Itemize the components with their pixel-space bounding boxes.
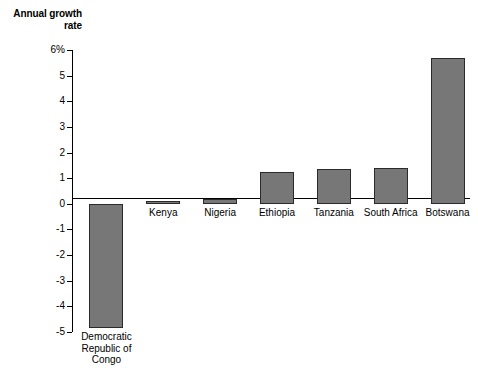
y-tick-label: 6% (51, 45, 65, 55)
bar (260, 172, 294, 204)
y-tick-label: -2 (56, 250, 65, 260)
y-tick-mark (67, 229, 72, 230)
y-axis-line (72, 50, 73, 332)
bar (203, 199, 237, 204)
y-tick-label: -1 (56, 224, 65, 234)
bar (317, 169, 351, 204)
x-category-label: Botswana (404, 207, 478, 219)
bar (431, 58, 465, 204)
bar (374, 168, 408, 204)
y-tick-label: -4 (56, 301, 65, 311)
y-tick-label: 1 (59, 173, 65, 183)
y-tick-label: 4 (59, 96, 65, 106)
y-tick-mark (67, 178, 72, 179)
y-tick-mark (67, 204, 72, 205)
bar (146, 201, 180, 204)
y-tick-mark (67, 101, 72, 102)
y-tick-mark (67, 281, 72, 282)
y-axis-title: Annual growth rate (10, 8, 82, 32)
y-tick-mark (67, 306, 72, 307)
bar-chart: Annual growth rate 6%543210-1-2-3-4-5 De… (0, 0, 478, 368)
y-tick-mark (67, 127, 72, 128)
y-tick-label: 2 (59, 148, 65, 158)
y-tick-mark (67, 153, 72, 154)
y-tick-mark (67, 50, 72, 51)
y-tick-label: 3 (59, 122, 65, 132)
y-tick-label: 0 (59, 199, 65, 209)
bar (89, 204, 123, 328)
y-tick-label: -3 (56, 276, 65, 286)
y-tick-label: 5 (59, 71, 65, 81)
y-tick-mark (67, 255, 72, 256)
y-tick-mark (67, 76, 72, 77)
x-category-label: Democratic Republic of Congo (62, 331, 150, 366)
plot-area: 6%543210-1-2-3-4-5 Democratic Republic o… (72, 50, 470, 332)
